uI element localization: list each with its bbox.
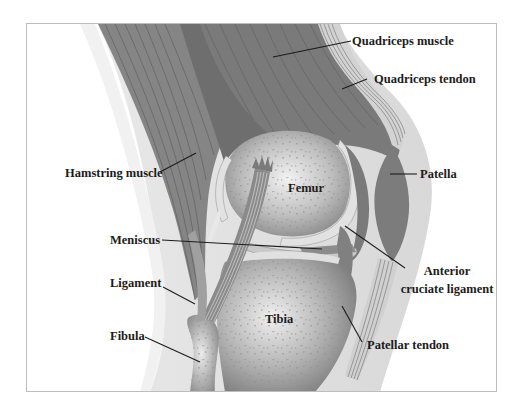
label-femur: Femur xyxy=(288,181,324,195)
label-cruciate-ligament: cruciate ligament xyxy=(385,282,509,296)
label-fibula: Fibula xyxy=(110,329,145,343)
knee-illustration xyxy=(0,0,525,415)
label-anterior: Anterior xyxy=(387,264,507,278)
label-meniscus: Meniscus xyxy=(110,233,160,247)
label-ligament: Ligament xyxy=(110,276,161,290)
label-quadriceps-muscle: Quadriceps muscle xyxy=(352,34,454,48)
label-patella: Patella xyxy=(420,167,457,181)
label-patellar-tendon: Patellar tendon xyxy=(367,338,449,352)
label-hamstring-muscle: Hamstring muscle xyxy=(65,166,163,180)
knee-diagram: Quadriceps muscle Quadriceps tendon Hams… xyxy=(0,0,525,415)
label-tibia: Tibia xyxy=(265,312,293,326)
label-quadriceps-tendon: Quadriceps tendon xyxy=(374,72,476,86)
